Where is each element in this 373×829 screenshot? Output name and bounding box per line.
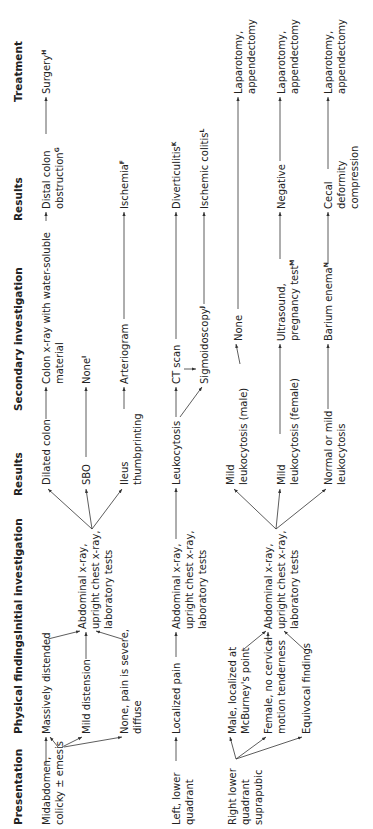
flow-arrows <box>0 0 373 829</box>
flowchart-canvas: Presentation Physical findings Initial i… <box>0 0 373 829</box>
